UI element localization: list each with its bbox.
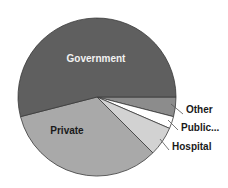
slice-label-government: Government — [67, 53, 127, 64]
pie-chart: OtherPublic...HospitalPrivateGovernment — [0, 0, 228, 188]
slice-label-other: Other — [186, 104, 213, 115]
slice-label-hospital: Hospital — [172, 141, 212, 152]
leader-line-hospital — [160, 139, 169, 150]
slice-label-private: Private — [50, 125, 84, 136]
slice-label-public: Public... — [181, 122, 220, 133]
pie-slices — [18, 18, 176, 176]
